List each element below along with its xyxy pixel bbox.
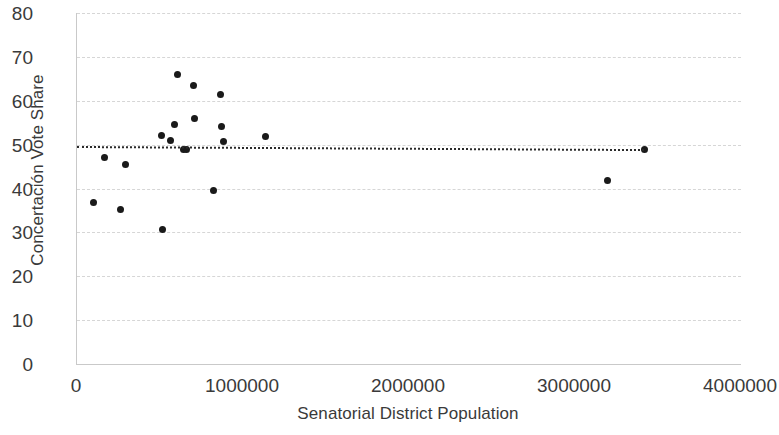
y-tick-label-40: 40 [0, 180, 33, 199]
gridline-y-10 [77, 320, 741, 321]
gridline-y-70 [77, 57, 741, 58]
data-point [101, 154, 108, 161]
data-point [220, 138, 227, 145]
data-point [174, 71, 181, 78]
y-tick-label-70: 70 [0, 48, 33, 67]
data-point [604, 177, 611, 184]
gridline-y-50 [77, 145, 741, 146]
gridline-y-20 [77, 276, 741, 277]
data-point [122, 161, 129, 168]
gridline-y-30 [77, 232, 741, 233]
trendline [77, 146, 644, 151]
y-tick-label-10: 10 [0, 311, 33, 330]
data-point [217, 91, 224, 98]
data-point [167, 137, 174, 144]
x-axis-title: Senatorial District Population [76, 404, 740, 424]
data-point [158, 132, 165, 139]
y-tick-label-20: 20 [0, 267, 33, 286]
y-tick-label-50: 50 [0, 136, 33, 155]
x-tick-label-1000000: 1000000 [162, 376, 322, 395]
x-tick-label-2000000: 2000000 [328, 376, 488, 395]
x-tick-label-4000000: 4000000 [660, 376, 779, 395]
data-point [171, 121, 178, 128]
data-point [117, 206, 124, 213]
gridline-y-60 [77, 101, 741, 102]
x-tick-label-0: 0 [0, 376, 156, 395]
y-tick-label-0: 0 [0, 355, 33, 374]
scatter-chart: Concertación Vote Share 0102030405060708… [0, 0, 779, 435]
y-tick-label-60: 60 [0, 92, 33, 111]
plot-area [76, 13, 741, 365]
data-point [190, 82, 197, 89]
data-point [90, 199, 97, 206]
data-point [210, 187, 217, 194]
data-point [262, 133, 269, 140]
y-tick-label-80: 80 [0, 4, 33, 23]
data-point [191, 115, 198, 122]
gridline-y-80 [77, 13, 741, 14]
x-tick-label-3000000: 3000000 [494, 376, 654, 395]
y-tick-label-30: 30 [0, 223, 33, 242]
data-point [218, 123, 225, 130]
gridline-y-40 [77, 189, 741, 190]
